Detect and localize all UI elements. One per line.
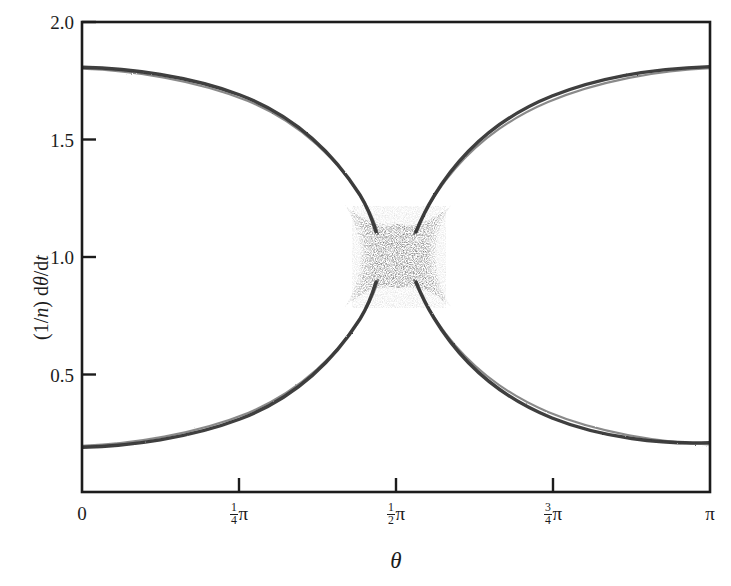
y-axis-title-mid: ) d: [30, 286, 52, 308]
pi-symbol: π: [238, 503, 248, 524]
x-tick-label-pi: π: [705, 504, 715, 523]
y-axis-title-prefix: (1/: [30, 318, 52, 340]
x-tick-label-half-pi: 1 2 π: [387, 502, 405, 527]
x-tick-label-0: 0: [77, 504, 87, 523]
x-axis-title: θ: [390, 548, 401, 574]
fraction-denominator: 4: [230, 515, 238, 527]
x-tick-label-three-quarter-pi: 3 4 π: [544, 502, 562, 527]
y-tick-label-0.5: 0.5: [22, 365, 74, 384]
pi-symbol: π: [552, 503, 562, 524]
fraction-one-quarter: 1 4: [230, 502, 238, 527]
fraction-denominator: 4: [544, 515, 552, 527]
figure-container: 2.0 1.5 1.0 0.5 0 1 4 π 1 2 π 3 4 π π θ …: [0, 0, 731, 586]
y-tick-label-2.0: 2.0: [22, 13, 74, 32]
y-axis-title-theta: θ: [30, 276, 52, 286]
chart-canvas: [0, 0, 731, 586]
fraction-three-quarters: 3 4: [544, 502, 552, 527]
fraction-one-half: 1 2: [387, 502, 395, 527]
y-axis-title-t: t: [30, 255, 52, 261]
fraction-denominator: 2: [387, 515, 395, 527]
scatter-noise: [352, 206, 446, 308]
x-tick-label-quarter-pi: 1 4 π: [230, 502, 248, 527]
y-tick-label-1.5: 1.5: [22, 130, 74, 149]
y-axis-title-slash: /d: [30, 261, 52, 277]
y-axis-title: (1/n) dθ/dt: [30, 255, 53, 340]
y-axis-title-n: n: [30, 308, 52, 318]
pi-symbol: π: [395, 503, 405, 524]
